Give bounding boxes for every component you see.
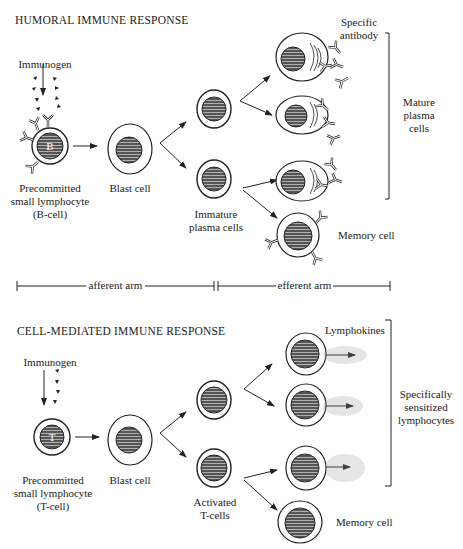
- label-line: (B-cell): [5, 208, 95, 221]
- efferent-arm-label: efferent arm: [276, 279, 333, 292]
- sensitized-bracket: [385, 320, 391, 486]
- mature-bracket: [385, 33, 389, 199]
- lymphokines-label: Lymphokines: [325, 324, 385, 337]
- cm-immunogen-label: Immunogen: [22, 356, 78, 369]
- immature-plasma-cell-lower: [197, 160, 231, 198]
- immature-label: Immature plasma cells: [183, 208, 249, 234]
- b-memory-label: Memory cell: [338, 229, 395, 242]
- b-precommitted-label: Precommitted small lymphocyte (B-cell): [5, 182, 95, 221]
- sensitized-label: Specifically sensitized lymphocytes: [393, 388, 459, 427]
- label-line: cells: [393, 122, 445, 135]
- cell-mediated-title: CELL-MEDIATED IMMUNE RESPONSE: [17, 325, 225, 337]
- label-line: Specific: [336, 16, 382, 29]
- afferent-arm-label: afferent arm: [86, 279, 145, 292]
- label-line: Precommitted: [8, 474, 98, 487]
- immature-plasma-cell-upper: [197, 90, 231, 128]
- immunogen-particles: [32, 76, 61, 111]
- label-line: lymphocytes: [393, 414, 459, 427]
- arms-timeline: [17, 281, 390, 291]
- mature-label: Mature plasma cells: [393, 96, 445, 135]
- t-cell-letter: T: [45, 431, 59, 444]
- label-line: (T-cell): [8, 500, 98, 513]
- label-line: plasma: [393, 109, 445, 122]
- label-line: sensitized: [393, 401, 459, 414]
- t-blast-label: Blast cell: [105, 474, 155, 487]
- b-blast-cell: [108, 124, 152, 174]
- t-memory-label: Memory cell: [336, 516, 393, 529]
- b-blast-label: Blast cell: [105, 182, 155, 195]
- activated-t-cell-lower: [197, 449, 231, 487]
- label-line: small lymphocyte: [5, 195, 95, 208]
- label-line: Mature: [393, 96, 445, 109]
- label-line: Activated: [187, 496, 243, 509]
- activated-label: Activated T-cells: [187, 496, 243, 522]
- mature-plasma-cells: [276, 33, 351, 201]
- label-line: Immature: [183, 208, 249, 221]
- sensitized-lymphocytes: [286, 333, 367, 490]
- b-cell-letter: B: [43, 140, 57, 153]
- humoral-title: HUMORAL IMMUNE RESPONSE: [15, 14, 189, 26]
- humoral-immunogen-label: Immunogen: [18, 58, 72, 71]
- specific-antibody-label: Specific antibody: [336, 16, 382, 42]
- label-line: Precommitted: [5, 182, 95, 195]
- label-line: antibody: [336, 29, 382, 42]
- activated-t-cell-upper: [197, 381, 231, 419]
- b-memory-cell: [265, 211, 328, 265]
- diagram-canvas: [0, 0, 463, 549]
- t-memory-cell: [278, 501, 322, 543]
- label-line: small lymphocyte: [8, 487, 98, 500]
- t-blast-cell: [108, 415, 152, 465]
- label-line: Specifically: [393, 388, 459, 401]
- label-line: T-cells: [187, 509, 243, 522]
- label-line: plasma cells: [183, 221, 249, 234]
- t-precommitted-label: Precommitted small lymphocyte (T-cell): [8, 474, 98, 513]
